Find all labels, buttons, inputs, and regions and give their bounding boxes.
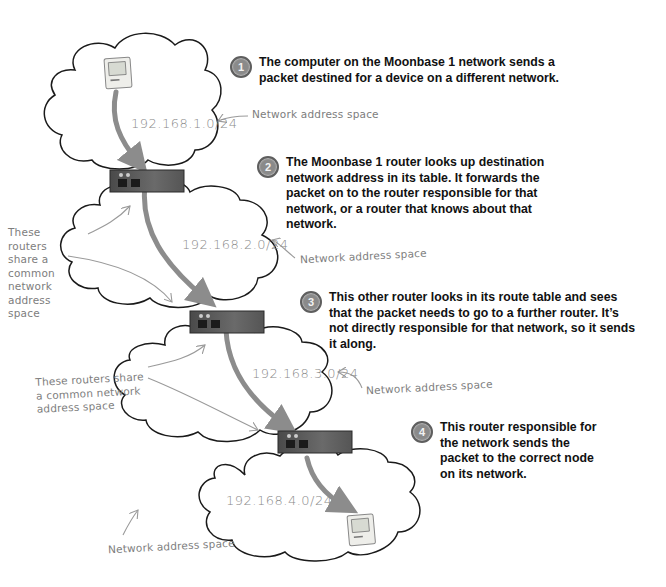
step-description: The computer on the Moonbase 1 network s… [259,55,590,86]
shared-space-note-1: These routers share a common network add… [8,226,80,321]
computer-icon [104,57,132,89]
network-space-label-1: Network address space [252,108,379,121]
step-number-badge: 3 [300,291,322,313]
step-description: This other router looks in its route tab… [329,290,640,352]
step-2: 2 The Moonbase 1 router looks up destina… [257,155,562,233]
step-number-badge: 4 [411,421,433,443]
router-icon [110,170,184,192]
step-4: 4 This router responsible for the networ… [411,420,611,482]
step-description: This router responsible for the network … [440,420,611,482]
step-number-badge: 1 [230,56,252,78]
leader-line-net4 [123,510,138,535]
network-address-1: 192.168.1.0/24 [131,116,238,131]
computer-icon [347,514,376,546]
shared-space-note-2: These routers share a common network add… [35,370,147,416]
step-3: 3 This other router looks in its route t… [300,290,640,352]
step-description: The Moonbase 1 router looks up destinati… [286,155,562,233]
step-1: 1 The computer on the Moonbase 1 network… [230,55,590,86]
network-address-4: 192.168.4.0/24 [226,493,333,508]
network-address-2: 192.168.2.0/24 [182,237,289,252]
step-number-badge: 2 [257,156,279,178]
router-icon [190,311,264,333]
router-icon [278,431,352,453]
cloud-network-1 [44,33,221,169]
network-address-3: 192.168.3.0/24 [252,366,359,381]
